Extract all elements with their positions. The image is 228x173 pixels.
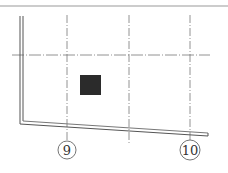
axis-label-9: 9: [63, 143, 71, 158]
bottom-wall-outer: [20, 124, 208, 136]
axis-bubble-10: 10: [180, 140, 200, 160]
plan-drawing: 9 10: [0, 0, 228, 173]
column: [80, 75, 101, 95]
bottom-wall-inner: [23, 121, 208, 133]
axis-label-10: 10: [182, 143, 199, 158]
axis-bubble-9: 9: [58, 141, 76, 159]
